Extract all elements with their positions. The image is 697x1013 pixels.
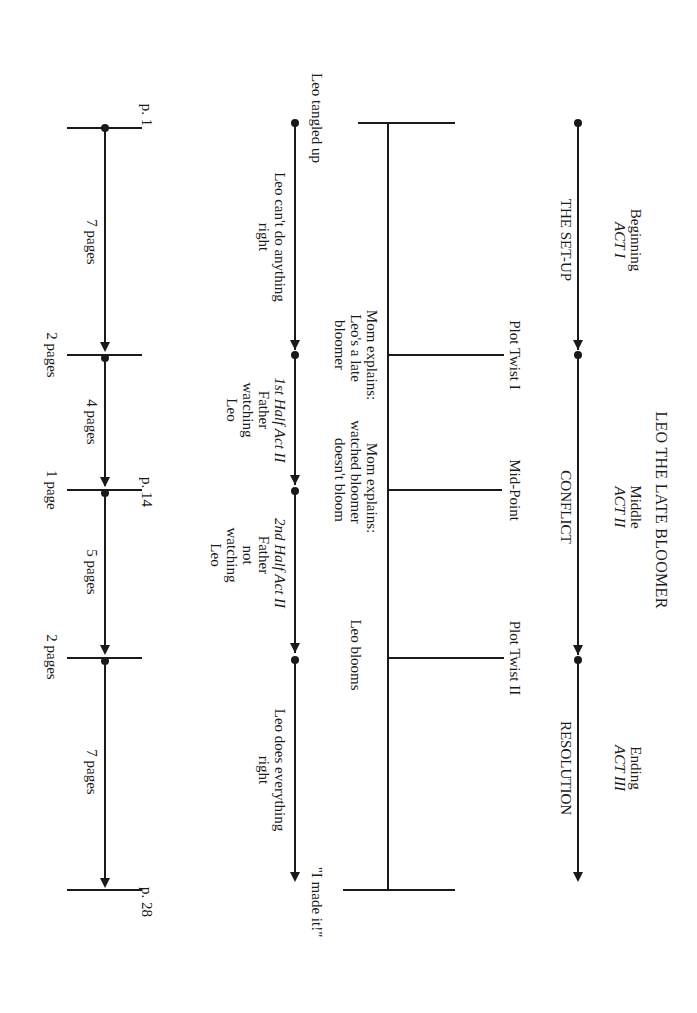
page-marker-p1: p. 1 (139, 104, 154, 127)
page-marker-p28: p. 28 (139, 887, 154, 917)
page-span-1-label: 7 pages (84, 219, 99, 264)
plot-twist-2-tick (388, 657, 504, 659)
seq-2-line2: watching (240, 383, 255, 438)
seq-1-line2: right (256, 223, 271, 251)
act-2-label: CONFLICT (558, 470, 573, 543)
act-1-number: ACT I (612, 222, 627, 258)
sequence-start-label: Leo tangled up (309, 73, 324, 163)
story-structure-diagram: LEO THE LATE BLOOMER Beginning ACT I Mid… (0, 0, 697, 1013)
seq-3-line2: not (240, 545, 255, 564)
plot-twist-1-label: Plot Twist I (507, 320, 522, 390)
event-mom-explains-2-line3: doesn't bloom (332, 438, 347, 522)
page-marker-p14: p. 14 (139, 477, 154, 507)
seq-1-arrow-line (294, 123, 296, 350)
page-gap-3-label: 2 pages (44, 634, 59, 679)
page-span-4-line (104, 661, 106, 886)
page-gap-1-label: 2 pages (44, 332, 59, 377)
page-span-1-line (104, 128, 106, 350)
page-gap-2-label: 1 page (44, 470, 59, 510)
event-mom-explains-1-line2: Leo's a late (348, 314, 363, 382)
page-span-2-line (104, 358, 106, 486)
act-1-arrowhead (573, 340, 583, 350)
seq-3-arrowhead (290, 643, 300, 653)
act-1-arrow-line (577, 123, 579, 350)
page-span-4-label: 7 pages (84, 749, 99, 794)
diagram-title: LEO THE LATE BLOOMER (654, 411, 669, 608)
mid-point-label: Mid-Point (507, 459, 522, 521)
seq-4-start-dot (291, 656, 299, 664)
seq-3-line3: watching (224, 528, 239, 583)
act-1-label: THE SET-UP (558, 199, 573, 281)
page-span-3-line (104, 493, 106, 653)
spine-start-tick (358, 122, 455, 124)
seq-2-arrow-line (294, 355, 296, 485)
seq-1-line1: Leo can't do anything (272, 172, 287, 302)
page-span-3-arrowhead (100, 645, 110, 655)
page-span-1-arrowhead (100, 342, 110, 352)
act-2-number: ACT II (612, 487, 627, 528)
spine-end-tick (343, 889, 455, 891)
event-mom-explains-1-line3: bloomer (332, 320, 347, 370)
event-mom-explains-2-line2: watched bloomer (348, 420, 363, 524)
seq-2-arrowhead (290, 475, 300, 485)
event-leo-blooms: Leo blooms (348, 619, 363, 690)
event-mom-explains-1-line1: Mom explains: (364, 310, 379, 400)
act-1-start-dot (574, 119, 582, 127)
story-spine (387, 123, 389, 890)
act-3-arrow-line (577, 660, 579, 880)
page-span-2-arrowhead (100, 477, 110, 487)
act-2-name: Middle (628, 485, 643, 528)
mid-point-tick (388, 489, 502, 491)
seq-3-line4: Leo (208, 543, 223, 566)
page-span-1-dot (101, 124, 109, 132)
plot-twist-1-tick (388, 354, 504, 356)
act-3-start-dot (574, 656, 582, 664)
seq-3-arrow-line (294, 491, 296, 653)
act-2-arrowhead (573, 645, 583, 655)
act-1-name: Beginning (628, 209, 643, 272)
act-3-label: RESOLUTION (558, 721, 573, 815)
seq-3-start-dot (291, 487, 299, 495)
act-2-start-dot (574, 351, 582, 359)
event-mom-explains-2-line1: Mom explains: (364, 443, 379, 533)
page-span-4-arrowhead (100, 878, 110, 888)
page-span-2-dot (101, 354, 109, 362)
sequence-end-label: "I made it!" (309, 867, 324, 938)
seq-2-start-dot (291, 351, 299, 359)
seq-4-line2: right (256, 756, 271, 784)
seq-1-arrowhead (290, 340, 300, 350)
seq-2-title: 1st Half Act II (272, 377, 287, 462)
page-span-4-dot (101, 657, 109, 665)
seq-3-title: 2nd Half Act II (272, 518, 287, 608)
act-2-arrow-line (577, 355, 579, 655)
seq-3-line1: Father (256, 536, 271, 574)
page-span-3-label: 5 pages (84, 549, 99, 594)
page-span-3-dot (101, 489, 109, 497)
page-span-2-label: 4 pages (84, 399, 99, 444)
act-3-name: Ending (628, 746, 643, 789)
plot-twist-2-label: Plot Twist II (507, 621, 522, 696)
seq-4-arrowhead (290, 872, 300, 882)
act-3-arrowhead (573, 872, 583, 882)
seq-1-start-dot (291, 119, 299, 127)
seq-4-line1: Leo does everything (272, 709, 287, 831)
seq-4-arrow-line (294, 660, 296, 880)
act-3-number: ACT III (612, 745, 627, 791)
page-tick-5 (67, 889, 142, 891)
seq-2-line1: Father (256, 391, 271, 429)
seq-2-line3: Leo (224, 398, 239, 421)
